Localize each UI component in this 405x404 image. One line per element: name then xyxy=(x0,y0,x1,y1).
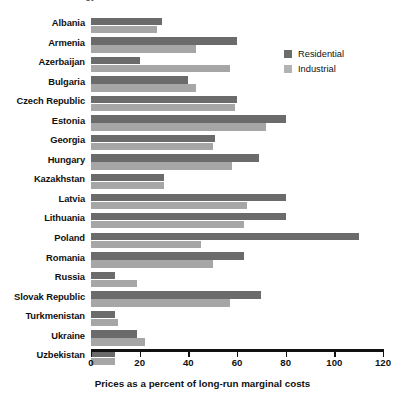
x-tick-label: 0 xyxy=(88,357,93,368)
category-label: Armenia xyxy=(48,37,85,48)
bar-residential xyxy=(91,291,261,298)
category-label: Albania xyxy=(52,17,85,28)
bar-residential xyxy=(91,96,237,103)
chart-row: Hungary xyxy=(91,153,383,173)
chart-row: Romania xyxy=(91,251,383,271)
bar-industrial xyxy=(91,319,118,326)
category-label: Georgia xyxy=(50,134,85,145)
x-tick-label: 40 xyxy=(183,357,194,368)
residential-swatch-icon xyxy=(284,50,292,58)
bar-residential xyxy=(91,213,286,220)
category-label: Azerbaijan xyxy=(39,56,85,67)
chart-row: Czech Republic xyxy=(91,94,383,114)
category-label: Slovak Republic xyxy=(14,291,85,302)
bar-residential xyxy=(91,76,188,83)
bar-industrial xyxy=(91,143,213,150)
bar-industrial xyxy=(91,104,235,111)
chart-row: Georgia xyxy=(91,133,383,153)
chart-row: Latvia xyxy=(91,192,383,212)
bar-residential xyxy=(91,115,286,122)
category-label: Hungary xyxy=(48,154,85,165)
bar-residential xyxy=(91,311,115,318)
category-label: Romania xyxy=(46,252,85,263)
legend-label-residential: Residential xyxy=(298,49,344,59)
chart-row: Bulgaria xyxy=(91,75,383,95)
x-tick-label: 100 xyxy=(326,357,342,368)
bar-residential xyxy=(91,233,359,240)
x-tick-label: 80 xyxy=(280,357,291,368)
bar-chart: Energy Prices Relative to Costs in Selec… xyxy=(0,0,405,404)
bar-industrial xyxy=(91,162,232,169)
category-label: Uzbekistan xyxy=(37,349,86,360)
bar-industrial xyxy=(91,241,201,248)
legend-item-residential: Residential xyxy=(284,46,344,61)
industrial-swatch-icon xyxy=(284,65,292,73)
chart-row: Albania xyxy=(91,16,383,36)
chart-row: Ukraine xyxy=(91,329,383,349)
category-label: Estonia xyxy=(52,115,85,126)
bar-industrial xyxy=(91,221,244,228)
bar-industrial xyxy=(91,338,145,345)
x-tick-label: 60 xyxy=(232,357,243,368)
chart-row: Turkmenistan xyxy=(91,309,383,329)
category-label: Poland xyxy=(54,232,85,243)
legend: Residential Industrial xyxy=(284,46,344,76)
legend-item-industrial: Industrial xyxy=(284,61,344,76)
x-tick-label: 20 xyxy=(134,357,145,368)
x-tick-label: 120 xyxy=(375,357,391,368)
category-label: Russia xyxy=(55,271,85,282)
bar-residential xyxy=(91,272,115,279)
chart-row: Russia xyxy=(91,270,383,290)
category-label: Ukraine xyxy=(51,330,85,341)
legend-label-industrial: Industrial xyxy=(298,64,336,74)
bar-residential xyxy=(91,135,215,142)
bar-residential xyxy=(91,252,244,259)
bar-industrial xyxy=(91,182,164,189)
bar-industrial xyxy=(91,299,230,306)
chart-row: Poland xyxy=(91,231,383,251)
bar-residential xyxy=(91,18,162,25)
category-label: Latvia xyxy=(59,193,86,204)
x-axis-title: Prices as a percent of long-run marginal… xyxy=(0,378,405,389)
bar-industrial xyxy=(91,260,213,267)
bar-residential xyxy=(91,174,164,181)
bar-industrial xyxy=(91,84,196,91)
bar-industrial xyxy=(91,202,247,209)
bar-industrial xyxy=(91,280,137,287)
bar-residential xyxy=(91,154,259,161)
bar-industrial xyxy=(91,123,266,130)
bar-residential xyxy=(91,37,237,44)
bar-industrial xyxy=(91,26,157,33)
category-label: Bulgaria xyxy=(48,76,85,87)
category-label: Lithuania xyxy=(44,212,85,223)
bar-industrial xyxy=(91,45,196,52)
bar-industrial xyxy=(91,358,115,365)
bar-residential xyxy=(91,57,140,64)
chart-row: Estonia xyxy=(91,114,383,134)
chart-row: Kazakhstan xyxy=(91,172,383,192)
chart-row: Slovak Republic xyxy=(91,290,383,310)
bar-residential xyxy=(91,330,137,337)
bar-industrial xyxy=(91,65,230,72)
bar-residential xyxy=(91,194,286,201)
chart-title: Energy Prices Relative to Costs in Selec… xyxy=(0,0,405,1)
category-label: Turkmenistan xyxy=(25,310,85,321)
category-label: Czech Republic xyxy=(17,95,85,106)
chart-row: Lithuania xyxy=(91,211,383,231)
category-label: Kazakhstan xyxy=(34,173,85,184)
